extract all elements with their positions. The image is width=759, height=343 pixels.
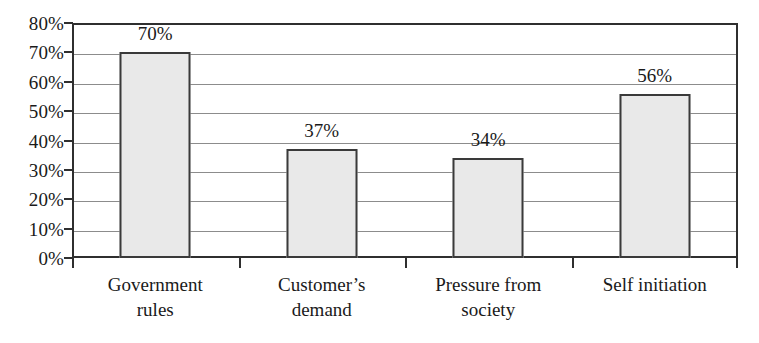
y-axis-tick-label: 30% [0, 160, 64, 179]
x-axis-tick-mark [572, 257, 574, 268]
x-axis-tick-mark [239, 257, 241, 268]
y-axis-tick-label: 80% [0, 14, 64, 33]
y-axis-tick-mark [64, 169, 73, 171]
bar-value-label: 56% [637, 66, 672, 85]
y-axis-tick-mark [64, 198, 73, 200]
bar-group: 37% [239, 23, 406, 258]
x-axis-category-label: Pressure fromsociety [405, 272, 572, 322]
bar[interactable] [120, 52, 191, 258]
bar-group: 34% [405, 23, 572, 258]
x-axis-category-line: rules [72, 297, 239, 322]
y-axis-tick-label: 10% [0, 219, 64, 238]
y-axis-tick-label: 70% [0, 43, 64, 62]
y-axis-tick-mark [64, 22, 73, 24]
x-axis-tick-mark [72, 257, 74, 268]
y-axis-tick-label: 0% [0, 249, 64, 268]
bar-group: 70% [72, 23, 239, 258]
y-axis-tick-label: 20% [0, 190, 64, 209]
bar-value-label: 37% [304, 121, 339, 140]
bar[interactable] [286, 149, 357, 258]
x-axis-category-label: Self initiation [572, 272, 739, 297]
y-axis: 0%10%20%30%40%50%60%70%80% [0, 23, 64, 258]
bar[interactable] [453, 158, 524, 258]
y-axis-tick-mark [64, 51, 73, 53]
x-axis-tick-mark [405, 257, 407, 268]
bar-value-label: 70% [138, 24, 173, 43]
y-axis-tick-label: 50% [0, 102, 64, 121]
x-axis-category-line: society [405, 297, 572, 322]
x-axis-category-line: Pressure from [405, 272, 572, 297]
x-axis-category-line: demand [239, 297, 406, 322]
bar[interactable] [619, 94, 690, 259]
bar-chart-figure: 0%10%20%30%40%50%60%70%80% 70%37%34%56% … [0, 0, 759, 343]
x-axis-category-line: Government [72, 272, 239, 297]
bars-layer: 70%37%34%56% [72, 23, 738, 258]
x-axis-category-label: Governmentrules [72, 272, 239, 322]
x-axis-category-line: Customer’s [239, 272, 406, 297]
x-axis-category-line: Self initiation [572, 272, 739, 297]
x-axis-category-label: Customer’sdemand [239, 272, 406, 322]
y-axis-tick-mark [64, 110, 73, 112]
y-axis-tick-label: 60% [0, 72, 64, 91]
x-axis-tick-mark [736, 257, 738, 268]
bar-group: 56% [572, 23, 739, 258]
y-axis-tick-mark [64, 81, 73, 83]
x-axis: GovernmentrulesCustomer’sdemandPressure … [72, 272, 738, 338]
y-axis-tick-mark [64, 228, 73, 230]
y-axis-tick-label: 40% [0, 131, 64, 150]
bar-value-label: 34% [471, 130, 506, 149]
y-axis-tick-mark [64, 140, 73, 142]
